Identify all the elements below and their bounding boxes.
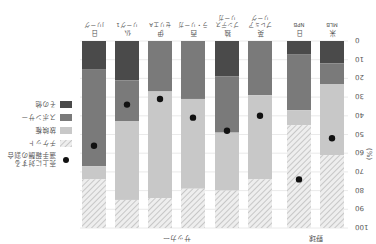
x-tick-label: セリエA <box>149 22 171 28</box>
bar-segment <box>320 84 344 155</box>
stacked-bar-chart: 0102030405060708090100(%) 米MLB日NPB英プレミアリ… <box>0 0 376 244</box>
bar-segment <box>148 91 172 198</box>
bar-segment <box>148 198 172 228</box>
y-tick-label: 20 <box>355 73 364 81</box>
x-tick-label: Jリーグ <box>84 21 105 29</box>
bar-segment <box>181 189 205 228</box>
bar-segment <box>287 110 311 125</box>
legend-label: チケット <box>28 139 56 147</box>
y-tick-label: 50 <box>355 130 364 138</box>
x-tick-label: リーガ <box>218 14 236 22</box>
bar-segment <box>115 80 139 121</box>
bar-segment <box>287 41 311 54</box>
bar-segment <box>82 166 106 179</box>
legend-label: その他 <box>35 100 56 109</box>
group-label: サッカー <box>163 234 191 242</box>
legend-swatch <box>60 114 72 121</box>
ratio-marker <box>157 96 163 102</box>
ratio-marker <box>224 128 230 134</box>
bar-segment <box>115 41 139 80</box>
x-tick-label: NPB <box>293 22 304 28</box>
group-labels: 野球サッカー <box>163 234 323 243</box>
y-tick-label: 80 <box>355 186 364 194</box>
legend-label: 選手報酬の割合 <box>7 151 56 160</box>
legend-label: スポンサー <box>21 113 56 121</box>
group-label: 野球 <box>309 234 323 243</box>
x-tick-label: リーグ <box>251 14 269 22</box>
bar-segment <box>320 155 344 228</box>
bar-segment <box>215 77 239 133</box>
bar-segment <box>215 133 239 191</box>
y-axis-label: (%) <box>365 148 373 160</box>
x-tick-label: 日 <box>296 29 303 37</box>
chart-stage: 0102030405060708090100(%) 米MLB日NPB英プレミアリ… <box>0 0 376 244</box>
x-tick-label: 仏 <box>124 29 131 37</box>
bar-segment <box>320 41 344 63</box>
x-tick-label: 米 <box>329 29 336 38</box>
ratio-marker <box>124 101 130 107</box>
y-tick-label: 30 <box>355 92 364 100</box>
legend-marker <box>63 157 69 163</box>
x-tick-label: プレミア <box>248 22 272 28</box>
x-tick-label: 西 <box>190 29 197 37</box>
y-tick-label: 10 <box>355 55 364 63</box>
ratio-marker <box>296 176 302 182</box>
legend-swatch <box>60 127 72 134</box>
y-axis: 0102030405060708090100(%) <box>355 36 373 231</box>
x-tick-label: ブンデス <box>215 21 239 29</box>
bar-segment <box>115 200 139 228</box>
x-tick-label: 英 <box>257 29 264 38</box>
y-tick-label: 90 <box>355 204 364 212</box>
bar-segment <box>82 179 106 228</box>
legend: その他スポンサー放映権チケット売上に対する選手報酬の割合 <box>7 100 72 169</box>
bar-segment <box>148 41 172 91</box>
x-tick-label: リーグ1 <box>116 21 138 29</box>
ratio-marker <box>190 114 196 120</box>
y-tick-label: 100 <box>355 223 368 231</box>
bar-segment <box>115 121 139 200</box>
legend-swatch <box>60 140 72 147</box>
bar-segment <box>181 41 205 99</box>
x-tick-label: 独 <box>224 29 231 38</box>
ratio-marker <box>257 113 263 119</box>
legend-label: 放映権 <box>35 126 56 135</box>
ratio-marker <box>329 135 335 141</box>
legend-swatch <box>60 101 72 108</box>
bar-segment <box>320 63 344 84</box>
x-tick-label: 日 <box>91 29 98 37</box>
y-tick-label: 70 <box>355 167 364 175</box>
bar-segment <box>215 191 239 228</box>
bar-segment <box>248 179 272 228</box>
bar-segment <box>215 41 239 77</box>
x-tick-label: 伊 <box>157 29 164 38</box>
x-axis-labels: 米MLB日NPB英プレミアリーグ独ブンデスリーガ西ラ・リーガ伊セリエA仏リーグ1… <box>84 14 338 38</box>
bar-segment <box>82 41 106 69</box>
y-tick-label: 40 <box>355 111 364 119</box>
x-tick-label: MLB <box>326 22 338 28</box>
bar-segment <box>248 95 272 179</box>
ratio-marker <box>91 143 97 149</box>
y-tick-label: 60 <box>355 148 364 156</box>
bar-segment <box>82 69 106 166</box>
y-tick-label: 0 <box>355 36 359 44</box>
bar-segment <box>181 99 205 189</box>
legend-label: 売上に対する <box>14 159 56 168</box>
bar-segment <box>287 54 311 110</box>
bar-segment <box>248 41 272 95</box>
x-tick-label: ラ・リーガ <box>178 21 208 29</box>
